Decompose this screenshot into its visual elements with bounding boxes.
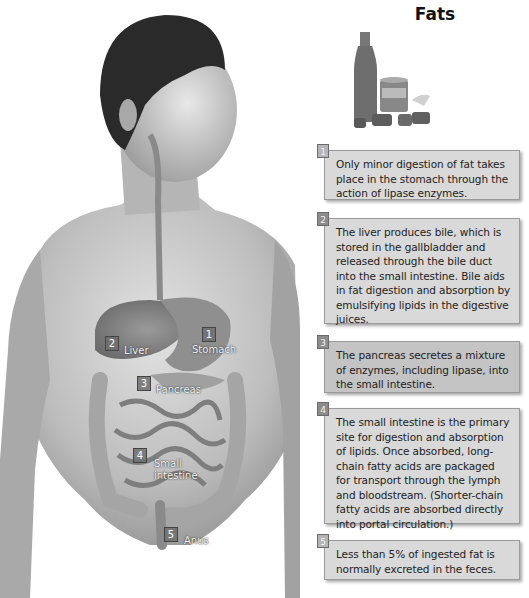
organ-label-stomach: Stomach (192, 344, 236, 355)
organ-label-pancreas: Pancreas (156, 384, 201, 395)
step-badge-1: 1 (317, 144, 329, 158)
organ-label-anus: Anus (184, 535, 209, 546)
fat-foods-image (350, 30, 460, 130)
step-card-1: Only minor digestion of fat takes place … (324, 150, 520, 200)
organ-number-stomach: 1 (202, 327, 216, 342)
step-text-5: Less than 5% of ingested fat is normally… (336, 548, 496, 575)
organ-number-anus: 5 (164, 527, 178, 542)
organ-label-small-intestine-line2: intestine (154, 470, 198, 482)
step-badge-4: 4 (317, 402, 329, 416)
organ-label-small-intestine-line1: Small (154, 458, 198, 470)
step-text-2: The liver produces bile, which is stored… (336, 226, 510, 325)
step-badge-2: 2 (317, 212, 329, 226)
step-badge-3: 3 (317, 335, 329, 349)
page-title: Fats (385, 4, 485, 24)
step-card-4: The small intestine is the primary site … (324, 408, 520, 524)
step-text-1: Only minor digestion of fat takes place … (336, 158, 508, 199)
step-card-3: The pancreas secretes a mixture of enzym… (324, 341, 520, 393)
step-card-5: Less than 5% of ingested fat is normally… (324, 540, 520, 580)
step-text-4: The small intestine is the primary site … (336, 416, 509, 530)
step-text-3: The pancreas secretes a mixture of enzym… (336, 349, 509, 390)
organ-number-pancreas: 3 (137, 376, 151, 391)
organ-number-liver: 2 (105, 336, 119, 351)
step-badge-5: 5 (317, 534, 329, 548)
digestive-system-illustration (0, 0, 300, 598)
organ-number-small-intestine: 4 (133, 448, 147, 463)
step-card-2: The liver produces bile, which is stored… (324, 218, 520, 324)
organ-label-liver: Liver (124, 345, 149, 356)
organ-label-small-intestine: Small intestine (154, 458, 198, 482)
